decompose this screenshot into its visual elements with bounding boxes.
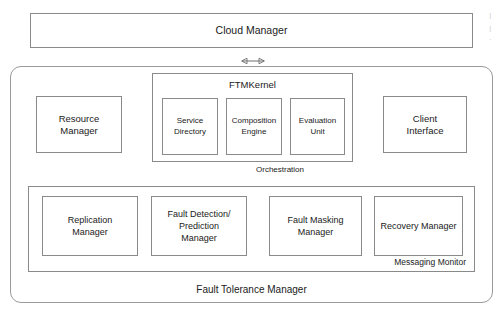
ftm-kernel-title: FTMKernel [153,79,352,91]
architecture-diagram: Cloud Manager Fault Tolerance Manager Re… [0,0,502,313]
replication-manager-box[interactable]: Replication Manager [42,196,138,256]
resource-manager-box[interactable]: Resource Manager [36,96,122,153]
messaging-monitor-label: Messaging Monitor [394,257,466,267]
ftm-kernel-box[interactable]: FTMKernel Service Directory Composition … [152,73,353,162]
service-directory-box[interactable]: Service Directory [162,98,218,155]
cropped-edge-artifact: I I I [489,10,495,40]
composition-engine-box[interactable]: Composition Engine [226,98,282,155]
fault-detection-prediction-manager-box[interactable]: Fault Detection/ Prediction Manager [151,196,247,256]
evaluation-unit-box[interactable]: Evaluation Unit [290,98,345,155]
client-interface-box[interactable]: Client Interface [383,96,467,153]
recovery-manager-box[interactable]: Recovery Manager [374,196,463,256]
cloud-manager-box[interactable]: Cloud Manager [30,13,473,48]
orchestration-label: Orchestration [256,165,304,174]
fault-tolerance-manager-label: Fault Tolerance Manager [11,284,492,295]
messaging-monitor-box[interactable]: Replication Manager Fault Detection/ Pre… [28,186,475,272]
fault-masking-manager-box[interactable]: Fault Masking Manager [269,196,362,256]
